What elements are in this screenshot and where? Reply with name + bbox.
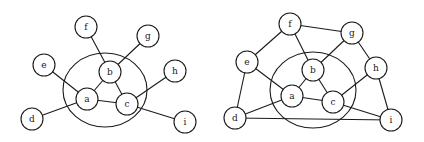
node-label: e bbox=[244, 57, 249, 67]
node-label: a bbox=[84, 94, 90, 104]
node-e: e bbox=[33, 54, 55, 76]
node-label: b bbox=[107, 67, 113, 77]
node-label: d bbox=[232, 113, 238, 123]
graph-right: fgebhacdi bbox=[224, 13, 402, 131]
node-label: a bbox=[289, 91, 295, 101]
node-g: g bbox=[137, 25, 159, 47]
node-label: h bbox=[373, 63, 379, 73]
node-h: h bbox=[365, 57, 387, 79]
node-a: a bbox=[281, 85, 303, 107]
edge-d-i bbox=[235, 118, 391, 120]
node-label: d bbox=[29, 114, 35, 124]
node-label: b bbox=[310, 65, 316, 75]
node-c: c bbox=[322, 91, 344, 113]
node-i: i bbox=[380, 109, 402, 131]
node-i: i bbox=[174, 111, 196, 133]
node-label: g bbox=[145, 31, 151, 41]
node-b: b bbox=[302, 59, 324, 81]
node-g: g bbox=[341, 22, 363, 44]
node-e: e bbox=[236, 51, 258, 73]
node-label: e bbox=[41, 60, 46, 70]
node-f: f bbox=[75, 16, 97, 38]
node-label: h bbox=[172, 66, 178, 76]
node-c: c bbox=[116, 93, 138, 115]
node-d: d bbox=[21, 108, 43, 130]
node-d: d bbox=[224, 107, 246, 129]
graph-left: fgebhacdi bbox=[21, 16, 196, 133]
node-label: i bbox=[184, 117, 187, 127]
node-label: c bbox=[124, 99, 129, 109]
node-b: b bbox=[99, 61, 121, 83]
node-h: h bbox=[164, 60, 186, 82]
node-a: a bbox=[76, 88, 98, 110]
node-label: c bbox=[330, 97, 335, 107]
node-label: i bbox=[390, 115, 393, 125]
node-label: g bbox=[349, 28, 355, 38]
diagram-canvas: fgebhacdi fgebhacdi bbox=[0, 0, 424, 142]
node-f: f bbox=[279, 13, 301, 35]
